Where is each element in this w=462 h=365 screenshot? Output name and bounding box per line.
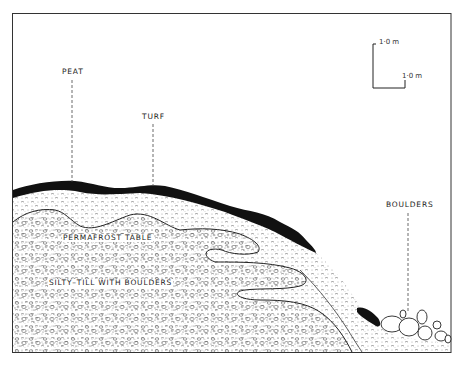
label-silty-till: SILTY–TILL WITH BOULDERS — [48, 279, 173, 287]
label-boulders: BOULDERS — [386, 201, 433, 209]
label-peat: PEAT — [62, 68, 84, 76]
scale-label-horizontal: 1·0 m — [402, 73, 422, 80]
label-permafrost-table: PERMAFROST TABLE — [62, 234, 153, 242]
scale-bar — [373, 44, 405, 88]
cross-section-diagram — [0, 0, 462, 365]
scale-label-vertical: 1·0 m — [379, 39, 399, 46]
label-turf: TURF — [142, 113, 165, 121]
